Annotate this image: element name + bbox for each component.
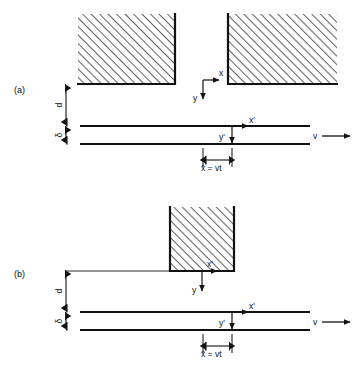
diagram-svg — [0, 0, 362, 365]
plate-a — [80, 126, 310, 144]
axis-y-label-a: y — [193, 94, 197, 103]
axis-x-label-b: x' — [207, 260, 213, 269]
panel-b — [66, 206, 350, 353]
axis-y-prime-label-a: y' — [219, 133, 225, 142]
axis-y-label-b: y — [192, 286, 196, 295]
dimension-delta-label-a: δ — [55, 133, 64, 138]
left-block — [77, 13, 176, 85]
moving-axes-b — [232, 312, 248, 329]
panel-a-tag: (a) — [14, 85, 25, 95]
figure-canvas: (a) (b) d δ x y x' y' v x̄ = vt d δ x' y… — [0, 0, 362, 365]
displacement-label-a: x̄ = vt — [201, 164, 222, 173]
axis-x-prime-label-b: x' — [249, 302, 255, 311]
fixed-axes-b — [202, 271, 217, 291]
axis-x-prime-label-a: x' — [249, 116, 255, 125]
plate-b — [80, 312, 310, 330]
right-block — [227, 13, 338, 85]
velocity-label-a: v — [313, 132, 317, 141]
panel-a — [66, 13, 350, 167]
center-block — [169, 206, 235, 272]
velocity-label-b: v — [313, 318, 317, 327]
displacement-label-b: x̄ = vt — [201, 350, 222, 359]
panel-b-tag: (b) — [14, 269, 25, 279]
dimension-d-label-b: d — [55, 289, 64, 294]
axis-x-label-a: x — [219, 69, 223, 78]
axis-y-prime-label-b: y' — [219, 319, 225, 328]
fixed-axes-a — [203, 80, 219, 99]
dimension-d-label-a: d — [55, 103, 64, 108]
moving-axes-a — [232, 126, 248, 143]
dimension-delta-label-b: δ — [55, 319, 64, 324]
